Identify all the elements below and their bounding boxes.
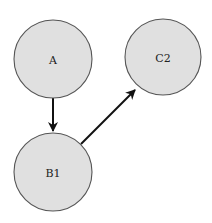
node-a-label: A: [48, 54, 58, 67]
node-b1[interactable]: B1: [14, 133, 92, 211]
edge-b1-to-c2: [81, 90, 135, 144]
node-c2[interactable]: C2: [125, 19, 201, 95]
node-a[interactable]: A: [14, 20, 92, 98]
node-c2-label: C2: [155, 52, 170, 65]
graph-canvas: A C2 B1: [0, 0, 212, 223]
node-b1-label: B1: [45, 167, 60, 180]
